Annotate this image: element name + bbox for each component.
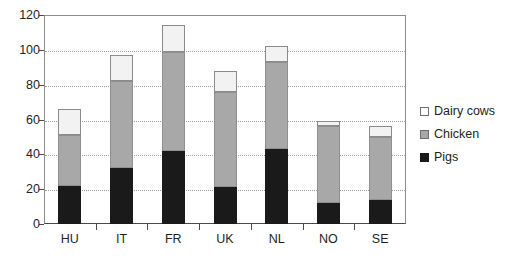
y-axis-label-60: 60: [0, 114, 40, 127]
bar-segment-no-pigs: [317, 203, 340, 224]
bar-segment-hu-chicken: [58, 135, 81, 186]
legend-label-pigs: Pigs: [434, 151, 458, 164]
chart-legend: Dairy cows Chicken Pigs: [420, 100, 509, 169]
legend-label-dairy-cows: Dairy cows: [434, 105, 495, 118]
bar-segment-no-dairy-cows: [317, 121, 340, 126]
bar-segment-se-chicken: [369, 137, 392, 200]
x-tick-mark-5: [303, 224, 304, 230]
bar-segment-it-chicken: [110, 81, 133, 168]
x-tick-mark-6: [354, 224, 355, 230]
y-axis-label-120: 120: [0, 9, 40, 22]
bar-segment-no-chicken: [317, 126, 340, 203]
bar-segment-uk-chicken: [214, 92, 237, 188]
bar-segment-fr-dairy-cows: [162, 25, 185, 51]
x-tick-mark-2: [147, 224, 148, 230]
x-tick-mark-3: [199, 224, 200, 230]
bar-segment-fr-chicken: [162, 52, 185, 151]
legend-item-dairy-cows: Dairy cows: [420, 100, 509, 123]
x-axis-label-fr: FR: [147, 233, 199, 246]
legend-item-chicken: Chicken: [420, 123, 509, 146]
stacked-bar-chart: 120 100 80 60 40 20 0 HUITFRUKNLNOSE Dai…: [0, 0, 509, 260]
x-axis-label-uk: UK: [199, 233, 251, 246]
bar-segment-it-pigs: [110, 168, 133, 224]
y-axis-label-0: 0: [0, 218, 40, 231]
bar-segment-nl-pigs: [265, 149, 288, 224]
bar-segment-nl-chicken: [265, 62, 288, 149]
bar-segment-se-dairy-cows: [369, 126, 392, 136]
x-tick-mark-4: [251, 224, 252, 230]
legend-swatch-dairy-cows-icon: [420, 107, 429, 116]
x-tick-mark-1: [96, 224, 97, 230]
y-axis-label-40: 40: [0, 148, 40, 161]
x-axis-label-hu: HU: [44, 233, 96, 246]
bar-segment-se-pigs: [369, 200, 392, 224]
bar-segment-fr-pigs: [162, 151, 185, 224]
bars-layer: [44, 15, 406, 224]
bar-segment-uk-pigs: [214, 187, 237, 224]
x-axis-label-it: IT: [96, 233, 148, 246]
bar-segment-uk-dairy-cows: [214, 71, 237, 92]
x-axis-label-nl: NL: [251, 233, 303, 246]
x-axis-label-se: SE: [354, 233, 406, 246]
y-axis-label-20: 20: [0, 183, 40, 196]
legend-item-pigs: Pigs: [420, 146, 509, 169]
bar-segment-it-dairy-cows: [110, 55, 133, 81]
y-axis-label-80: 80: [0, 79, 40, 92]
bar-segment-hu-dairy-cows: [58, 109, 81, 135]
bar-segment-nl-dairy-cows: [265, 46, 288, 62]
legend-swatch-chicken-icon: [420, 130, 429, 139]
x-axis-label-no: NO: [302, 233, 354, 246]
legend-swatch-pigs-icon: [420, 153, 429, 162]
y-axis-label-100: 100: [0, 44, 40, 57]
bar-segment-hu-pigs: [58, 186, 81, 224]
legend-label-chicken: Chicken: [434, 128, 479, 141]
